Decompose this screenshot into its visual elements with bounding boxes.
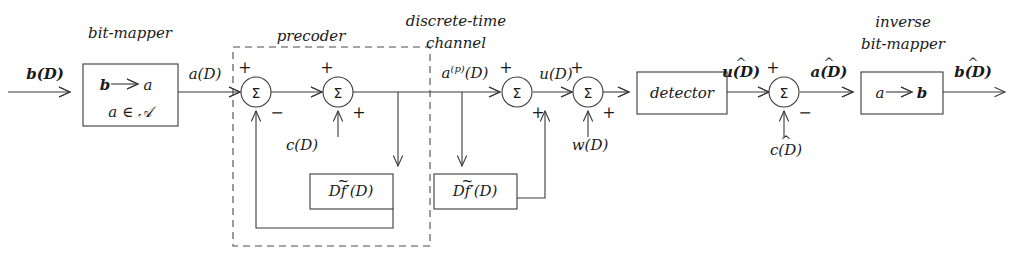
a-hat-accent-group: ^a(D) [811, 65, 848, 80]
sign-channel-isi-feedback-plus: + [531, 105, 544, 121]
tilde-accent-icon: ~ [338, 174, 350, 188]
label-signal-b-hat: ^b(D) [954, 65, 992, 80]
label-signal-ap-tail: (D) [465, 64, 489, 82]
summer-precoder-1-sigma: Σ [252, 86, 261, 100]
b-hat-accent-group: ^b(D) [954, 65, 992, 80]
label-signal-ap-superscript: (p) [451, 63, 465, 74]
sign-receiver-chat-minus: − [798, 105, 811, 121]
sign-precoder-2-c-plus: + [352, 105, 365, 121]
sign-precoder-1-feedback-minus: − [270, 105, 283, 121]
c-hat-accent-group: ^c(D) [770, 143, 802, 158]
sign-channel-noise-w-plus: + [602, 105, 615, 121]
inverse-rule-to: b [917, 86, 928, 101]
summer-precoder-2-sigma: Σ [334, 86, 343, 100]
hat-accent-icon: ^ [736, 56, 747, 69]
title-inverse-line1: inverse [875, 15, 931, 30]
label-signal-c-hat: ^c(D) [770, 143, 802, 158]
precoder-filter-label-suffix: ′(D) [346, 182, 373, 200]
title-precoder: precoder [277, 29, 346, 44]
channel-filter-label-suffix: ′(D) [470, 182, 497, 200]
hat-accent-icon: ^ [824, 56, 835, 69]
title-channel-line1: discrete-time [406, 14, 506, 29]
label-signal-ap: a(p)(D) [442, 64, 489, 81]
bit-mapper-rule-from: b [100, 78, 111, 93]
label-signal-u: u(D) [539, 67, 572, 82]
label-signal-a-hat: ^a(D) [811, 65, 848, 80]
label-signal-c: c(D) [286, 138, 318, 153]
label-signal-u-hat: ^u(D) [722, 65, 760, 80]
label-input-signal: b(D) [26, 67, 64, 82]
precoder-filter-label: D~f′(D) [329, 184, 374, 199]
channel-feedback-wire [517, 111, 545, 198]
summer-channel-isi-sigma: Σ [513, 86, 522, 100]
label-signal-ap-base: a [442, 64, 451, 82]
inverse-bit-mapper-block [861, 72, 943, 114]
title-channel-line2: channel [426, 36, 486, 51]
block-diagram-canvas: bit-mapper precoder discrete-time channe… [0, 0, 1022, 262]
sign-precoder-1-input-plus: + [238, 60, 251, 76]
tilde-accent-icon: ~ [462, 174, 474, 188]
detector-label: detector [650, 86, 714, 101]
hat-accent-icon: ^ [968, 56, 979, 69]
channel-filter-label: D~f′(D) [453, 184, 498, 199]
label-signal-a: a(D) [189, 67, 222, 82]
bit-mapper-rule-to: a [144, 78, 153, 93]
title-inverse-line2: bit-mapper [861, 37, 945, 52]
label-signal-w: w(D) [572, 138, 609, 153]
u-hat-accent-group: ^u(D) [722, 65, 760, 80]
inverse-rule-from: a [876, 86, 885, 101]
title-bit-mapper: bit-mapper [88, 26, 172, 41]
sign-channel-isi-input-plus: + [499, 60, 512, 76]
sign-channel-noise-input-plus: + [570, 60, 583, 76]
summer-channel-noise-sigma: Σ [584, 86, 593, 100]
bit-mapper-alphabet: a ∈ 𝒜 [108, 105, 152, 120]
hat-accent-icon: ^ [781, 134, 792, 147]
channel-filter-tilde-group: ~f [465, 184, 471, 199]
summer-receiver-sigma: Σ [780, 86, 789, 100]
precoder-feedback-wire [256, 111, 393, 228]
sign-receiver-input-plus: + [766, 60, 779, 76]
precoder-filter-tilde-group: ~f [341, 184, 347, 199]
sign-precoder-2-input-plus: + [320, 60, 333, 76]
